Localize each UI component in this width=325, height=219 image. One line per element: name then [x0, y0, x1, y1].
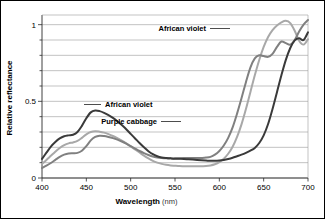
- series-line: [42, 32, 308, 161]
- chart-canvas: 400450500550600650700 00.51 African viol…: [0, 0, 325, 219]
- gridlines: [42, 25, 308, 178]
- x-axis-title-unit: (nm): [162, 197, 178, 206]
- series-annotation-label: Purple cabbage: [101, 117, 157, 126]
- annotation-labels: African violetAfrican violetPurple cabba…: [101, 24, 206, 126]
- series-annotation-label: African violet: [105, 100, 153, 109]
- x-tick-label: 550: [168, 183, 182, 192]
- y-tick-labels: 00.51: [25, 21, 37, 183]
- y-tick-label: 0.5: [25, 97, 37, 106]
- series-line: [42, 20, 308, 168]
- x-tick-label: 500: [124, 183, 138, 192]
- x-tick-label: 400: [35, 183, 49, 192]
- y-axis-title: Relative reflectance: [5, 60, 14, 136]
- x-tick-label: 700: [301, 183, 315, 192]
- x-tick-label: 450: [80, 183, 94, 192]
- y-tick-label: 0: [32, 174, 37, 183]
- x-tick-label: 650: [257, 183, 271, 192]
- x-axis-title: Wavelength: [115, 197, 160, 206]
- spectral-reflectance-figure: 400450500550600650700 00.51 African viol…: [0, 0, 325, 219]
- axis-lines: [42, 15, 308, 178]
- x-tick-labels: 400450500550600650700: [35, 183, 315, 192]
- series-line: [42, 21, 308, 167]
- series-annotation-label: African violet: [158, 24, 206, 33]
- data-series-group: [42, 20, 308, 168]
- x-tick-label: 600: [213, 183, 227, 192]
- y-tick-label: 1: [32, 21, 37, 30]
